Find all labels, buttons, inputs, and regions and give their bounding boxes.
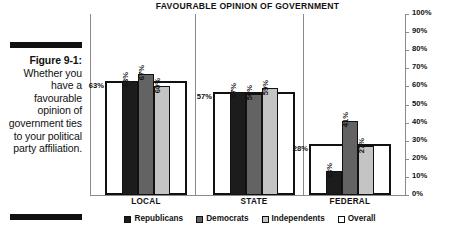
y-tick-label: 90% <box>412 27 427 35</box>
bar-group: 57%57%56%59%STATE <box>213 14 295 195</box>
legend-item-democrats[interactable]: Democrats <box>196 215 248 223</box>
figure-container: Figure 9-1: Whether you have a favourabl… <box>0 0 451 237</box>
bar-democrats[interactable]: 56% <box>246 94 262 195</box>
legend-swatch <box>124 216 131 223</box>
y-tick-mark <box>405 32 409 33</box>
bar-group: 28%13%41%27%FEDERAL <box>309 14 391 195</box>
chart-legend: RepublicansDemocratsIndependentsOverall <box>90 215 410 223</box>
group-separator <box>303 14 304 195</box>
group-label-federal: FEDERAL <box>309 197 391 206</box>
bar-value-label: 59% <box>262 80 270 95</box>
y-tick-mark <box>405 105 409 106</box>
bar-independents[interactable]: 59% <box>262 88 278 195</box>
caption-figure-label: Figure 9-1: <box>29 54 82 66</box>
bars-row: 57%56%59% <box>213 14 295 195</box>
y-tick-label: 60% <box>412 81 427 89</box>
y-tick-label: 20% <box>412 154 427 162</box>
legend-item-republicans[interactable]: Republicans <box>124 215 183 223</box>
bars-row: 63%67%60% <box>105 14 187 195</box>
legend-swatch <box>338 216 345 223</box>
y-tick-mark <box>405 50 409 51</box>
legend-swatch <box>262 216 269 223</box>
bar-value-label: 60% <box>154 78 162 93</box>
legend-swatch <box>196 216 203 223</box>
bar-group: 63%63%67%60%LOCAL <box>105 14 187 195</box>
legend-label: Democrats <box>206 215 248 223</box>
y-tick-mark <box>405 123 409 124</box>
group-label-local: LOCAL <box>105 197 187 206</box>
bar-value-label: 57% <box>230 83 238 98</box>
legend-label: Independents <box>272 215 325 223</box>
y-tick-mark <box>405 195 409 196</box>
y-tick-mark <box>405 141 409 142</box>
y-tick-label: 50% <box>412 100 427 108</box>
y-tick-mark <box>405 159 409 160</box>
legend-label: Republicans <box>134 215 183 223</box>
y-tick-label: 10% <box>412 172 427 180</box>
bar-value-label: 63% <box>122 72 130 87</box>
bar-value-label: 56% <box>246 85 254 100</box>
caption-text: Figure 9-1: Whether you have a favourabl… <box>0 48 88 155</box>
y-tick-label: 0% <box>412 190 423 198</box>
y-tick-mark <box>405 14 409 15</box>
bar-republicans[interactable]: 57% <box>230 92 246 195</box>
legend-item-overall[interactable]: Overall <box>338 215 376 223</box>
group-label-state: STATE <box>213 197 295 206</box>
y-tick-label: 30% <box>412 136 427 144</box>
bar-republicans[interactable]: 63% <box>122 81 138 195</box>
bars-row: 13%41%27% <box>309 14 391 195</box>
bar-value-label: 13% <box>326 163 334 178</box>
legend-item-independents[interactable]: Independents <box>262 215 325 223</box>
figure-caption: Figure 9-1: Whether you have a favourabl… <box>0 42 88 155</box>
bar-independents[interactable]: 27% <box>358 146 374 195</box>
bar-democrats[interactable]: 67% <box>138 74 154 195</box>
y-tick-mark <box>405 68 409 69</box>
y-tick-label: 70% <box>412 63 427 71</box>
caption-body: Whether you have a favourable opinion of… <box>9 67 82 155</box>
bar-value-label: 41% <box>342 112 350 127</box>
y-tick-label: 100% <box>412 9 431 17</box>
bar-republicans[interactable]: 13% <box>326 171 342 195</box>
y-tick-label: 80% <box>412 45 427 53</box>
plot-area: 63%63%67%60%LOCAL57%57%56%59%STATE28%13%… <box>90 14 405 196</box>
caption-rule-bottom-wrap <box>0 214 88 220</box>
bar-value-label: 67% <box>138 65 146 80</box>
y-tick-mark <box>405 86 409 87</box>
bar-independents[interactable]: 60% <box>154 86 170 195</box>
bar-democrats[interactable]: 41% <box>342 121 358 195</box>
caption-rule-bottom <box>10 214 82 220</box>
chart-title: FAVOURABLE OPINION OF GOVERNMENT <box>90 1 405 11</box>
y-axis: 100%90%80%70%60%50%40%30%20%10%0% <box>405 14 451 196</box>
legend-label: Overall <box>348 215 376 223</box>
group-separator <box>195 14 196 195</box>
y-tick-label: 40% <box>412 118 427 126</box>
bar-value-label: 27% <box>358 138 366 153</box>
y-tick-mark <box>405 177 409 178</box>
